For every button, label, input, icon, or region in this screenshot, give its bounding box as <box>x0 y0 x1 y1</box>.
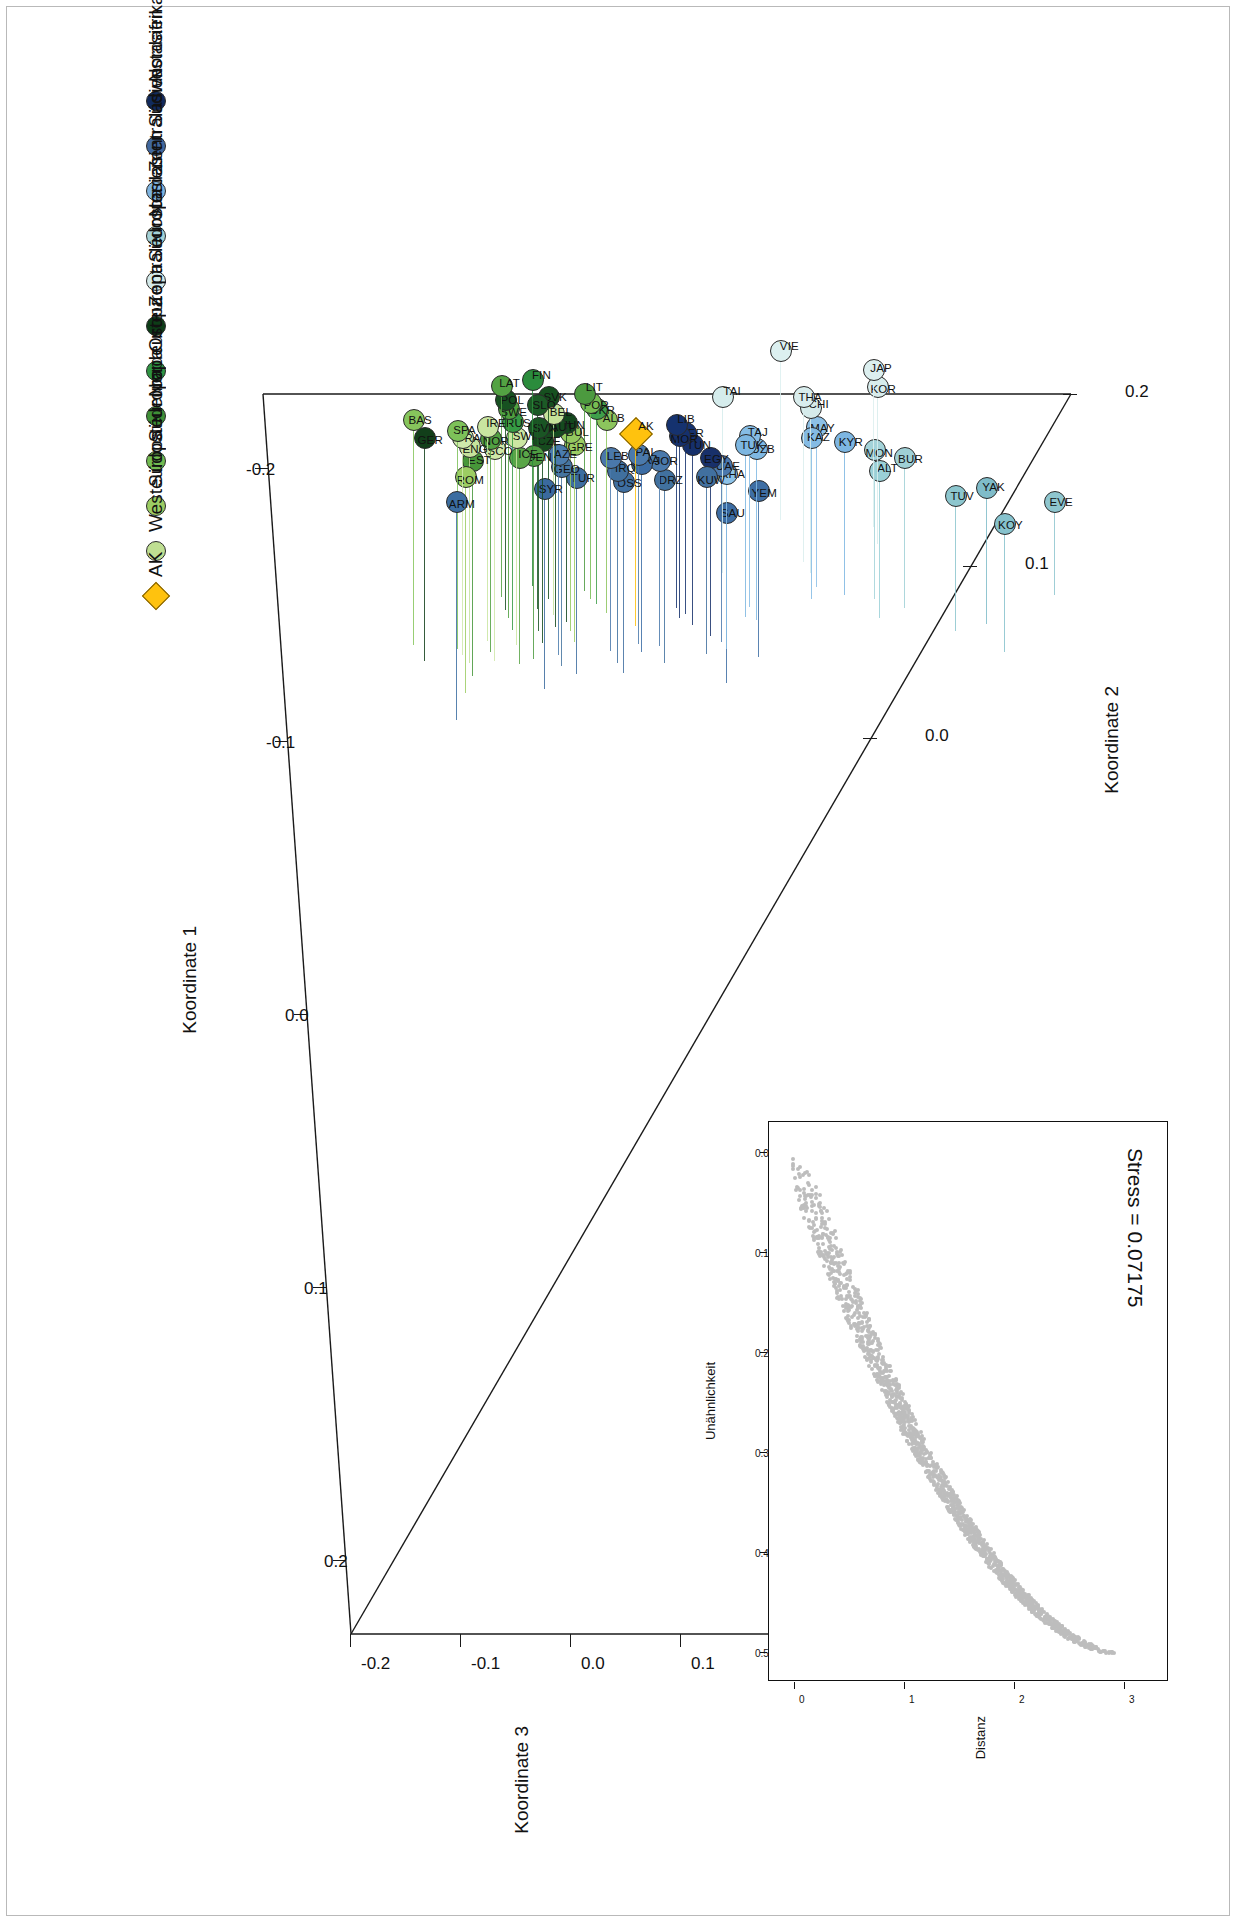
drop-line <box>413 420 414 645</box>
drop-line <box>811 438 812 599</box>
drop-line <box>745 445 746 617</box>
shepard-point <box>808 1226 812 1230</box>
shepard-point <box>903 1420 907 1424</box>
legend-item[interactable]: Westeuropa <box>145 430 167 561</box>
koordinate3-tick <box>570 1634 571 1647</box>
shepard-point <box>827 1273 831 1277</box>
point-label: SPA <box>453 424 476 436</box>
shepard-point <box>812 1230 816 1234</box>
inset-y-tick <box>904 1682 905 1689</box>
shepard-point <box>988 1559 992 1563</box>
shepard-point <box>1097 1649 1101 1653</box>
shepard-point <box>922 1452 926 1456</box>
shepard-point <box>1063 1635 1067 1639</box>
shepard-point <box>808 1193 812 1197</box>
shepard-point <box>791 1157 795 1161</box>
shepard-point <box>828 1277 832 1281</box>
koordinate2-tick-label: 0.2 <box>1125 382 1149 402</box>
legend-item[interactable]: AK <box>145 552 167 606</box>
koordinate1-tick-label: 0.0 <box>285 1006 309 1026</box>
point-label: ICE <box>518 448 538 460</box>
shepard-point <box>827 1217 831 1221</box>
shepard-point <box>924 1457 928 1461</box>
drop-line <box>590 403 591 599</box>
koordinate3-tick-label: -0.1 <box>471 1654 500 1674</box>
point-label: BUR <box>898 453 923 465</box>
inset-y-tick <box>794 1682 795 1689</box>
point-label: EGY <box>704 453 729 465</box>
shepard-point <box>807 1183 811 1187</box>
drop-line <box>561 467 562 666</box>
shepard-point <box>952 1512 956 1516</box>
shepard-point <box>791 1162 795 1166</box>
drop-line <box>424 438 425 661</box>
inset-x-axis-title: Unähnlichkeit <box>703 1121 718 1681</box>
shepard-point <box>825 1227 829 1231</box>
koordinate2-tick <box>963 566 977 567</box>
shepard-point <box>914 1454 918 1458</box>
drop-line <box>462 438 463 655</box>
shepard-point <box>817 1202 821 1206</box>
figure-page: 0.20.10.0Koordinate 2-0.2-0.10.00.10.2Ko… <box>0 0 1236 1922</box>
drop-line <box>519 458 520 664</box>
inset-y-tick-label: 3 <box>1129 1694 1135 1705</box>
drop-line <box>758 491 759 657</box>
shepard-point <box>942 1495 946 1499</box>
rotated-figure: 0.20.10.0Koordinate 2-0.2-0.10.00.10.2Ko… <box>13 16 1223 1906</box>
shepard-point <box>1104 1651 1108 1655</box>
shepard-point <box>1039 1617 1043 1621</box>
shepard-point <box>830 1248 834 1252</box>
shepard-point <box>807 1173 811 1177</box>
shepard-point <box>1088 1643 1092 1647</box>
shepard-point <box>814 1185 818 1189</box>
shepard-point <box>833 1282 837 1286</box>
koordinate3-axis-title: Koordinate 3 <box>511 1726 533 1834</box>
drop-line <box>810 408 811 573</box>
point-label: KYR <box>839 437 863 449</box>
shepard-point <box>810 1200 814 1204</box>
plot-wrapper: 0.20.10.0Koordinate 2-0.2-0.10.00.10.2Ko… <box>13 16 1223 1906</box>
shepard-point <box>917 1459 921 1463</box>
drop-line <box>1004 524 1005 652</box>
shepard-point <box>975 1547 979 1551</box>
shepard-point <box>798 1194 802 1198</box>
shepard-point <box>868 1324 872 1328</box>
shepard-point <box>1057 1622 1061 1626</box>
drop-line <box>505 400 506 610</box>
point-label: ARM <box>449 498 475 510</box>
shepard-point <box>859 1336 863 1340</box>
shepard-point <box>856 1316 860 1320</box>
point-label: DRZ <box>659 474 683 486</box>
drop-line <box>986 488 987 624</box>
shepard-point <box>1072 1639 1076 1643</box>
shepard-point <box>1011 1590 1015 1594</box>
shepard-point <box>876 1348 880 1352</box>
shepard-point <box>992 1551 996 1555</box>
shepard-point <box>810 1188 814 1192</box>
point-label: SLO <box>532 398 556 410</box>
drop-line <box>879 471 880 618</box>
drop-line <box>873 370 874 527</box>
point-label: LIT <box>586 381 603 393</box>
inset-x-tick-label: 0.1 <box>755 1248 769 1259</box>
point-label: BAS <box>408 414 432 426</box>
shepard-point <box>978 1541 982 1545</box>
inset-y-tick-label: 0 <box>799 1694 805 1705</box>
point-label: AK <box>638 420 654 432</box>
shepard-point <box>852 1322 856 1326</box>
inset-y-tick <box>1124 1682 1125 1689</box>
drop-line <box>544 489 545 689</box>
shepard-point <box>847 1290 851 1294</box>
shepard-point <box>838 1272 842 1276</box>
point-label: KOR <box>870 383 896 395</box>
shepard-point <box>1006 1583 1010 1587</box>
shepard-point <box>846 1309 850 1313</box>
koordinate2-tick-label: 0.1 <box>1025 554 1049 574</box>
drop-line <box>679 436 680 618</box>
point-label: THA <box>798 390 822 402</box>
drop-line <box>676 425 677 608</box>
drop-line <box>494 449 495 661</box>
koordinate1-tick-label: 0.2 <box>324 1552 348 1572</box>
shepard-point <box>814 1196 818 1200</box>
point-label: EVE <box>1049 496 1073 508</box>
